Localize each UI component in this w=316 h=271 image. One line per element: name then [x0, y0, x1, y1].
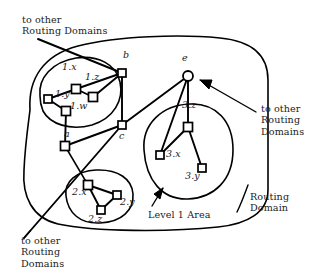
- node-label-1x: 1.x: [62, 61, 77, 72]
- annotation-level-1-area: Level 1 Area: [148, 209, 211, 220]
- node-3x: [156, 151, 164, 159]
- external-link-bottom-left: [24, 125, 122, 238]
- external-link-top-left: [38, 39, 122, 73]
- node-label-2x: 2.x: [72, 186, 87, 197]
- annotation-top-left: to other Routing Domains: [22, 14, 107, 37]
- node-3z: [184, 123, 193, 132]
- node-label-e: e: [182, 52, 188, 63]
- routing-domain-diagram: 1.x 1.z 1.y 1.w b c a e 3.z 3.x 3.y 2.x …: [0, 0, 316, 271]
- node-label-1y: 1.y: [55, 88, 70, 99]
- node-b: [118, 69, 126, 77]
- node-label-3z: 3.z: [182, 99, 196, 110]
- node-label-b: b: [123, 49, 129, 60]
- annotation-leader-routing-domain: [237, 185, 248, 212]
- node-label-a: a: [64, 128, 70, 139]
- annotation-bottom-left: to other Routing Domains: [21, 235, 64, 269]
- node-label-1w: 1.w: [70, 100, 88, 111]
- node-label-2z: 2.z: [88, 213, 102, 224]
- arrowhead-to-node-e: [200, 80, 212, 89]
- node-label-1z: 1.z: [85, 71, 99, 82]
- annotation-right: to other Routing Domains: [261, 103, 304, 137]
- link-e-3x: [160, 76, 188, 155]
- arrowhead-to-level1-area: [154, 188, 163, 199]
- link-a-2x: [65, 146, 88, 185]
- node-1y: [44, 95, 52, 103]
- node-1x: [72, 85, 81, 94]
- node-label-3x: 3.x: [166, 148, 181, 159]
- node-label-2y: 2.y: [120, 196, 135, 207]
- node-a: [61, 142, 70, 151]
- node-c: [118, 121, 126, 129]
- node-1z: [89, 93, 98, 102]
- node-label-c: c: [119, 130, 124, 141]
- node-label-3y: 3.y: [185, 170, 200, 181]
- link-3z-3y: [188, 127, 202, 168]
- node-e: [183, 71, 193, 81]
- annotation-routing-domain: Routing Domain: [250, 191, 289, 214]
